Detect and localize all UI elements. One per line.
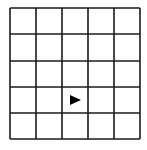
grid-lines (10, 8, 140, 139)
grid-diagram (0, 0, 147, 150)
arrow-right-icon (70, 95, 81, 105)
arrow-right-icon (70, 95, 81, 105)
